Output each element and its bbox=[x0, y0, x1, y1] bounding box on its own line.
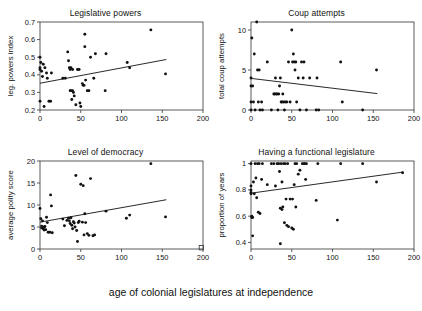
panel-functional-legislature: Having a functional legislature 05010015… bbox=[211, 139, 422, 278]
svg-text:0: 0 bbox=[249, 253, 253, 262]
panel-coup-attempts: Coup attempts 0501001502000510total coup… bbox=[211, 0, 422, 139]
svg-text:100: 100 bbox=[326, 114, 338, 123]
svg-text:average polity score: average polity score bbox=[6, 170, 15, 240]
svg-text:0.2: 0.2 bbox=[25, 106, 35, 115]
svg-text:100: 100 bbox=[326, 253, 338, 262]
svg-text:15: 15 bbox=[27, 179, 35, 188]
svg-text:0: 0 bbox=[242, 106, 246, 115]
plot-legislative-powers: 0501001502000.20.30.40.50.60.7leg. power… bbox=[0, 0, 211, 139]
svg-text:total coup attempts: total coup attempts bbox=[217, 33, 226, 99]
svg-text:100: 100 bbox=[115, 114, 127, 123]
svg-text:150: 150 bbox=[156, 114, 168, 123]
svg-text:0.6: 0.6 bbox=[236, 212, 246, 221]
svg-text:150: 150 bbox=[367, 114, 379, 123]
plot-level-of-democracy: 05010015020005101520average polity score bbox=[0, 139, 211, 278]
svg-text:0: 0 bbox=[249, 114, 253, 123]
svg-text:5: 5 bbox=[242, 66, 246, 75]
svg-text:10: 10 bbox=[27, 201, 35, 210]
plot-functional-legislature: 0501001502000.40.60.81proportion of year… bbox=[211, 139, 422, 278]
svg-text:leg. powers index: leg. powers index bbox=[6, 36, 15, 97]
panel-level-of-democracy: Level of democracy 05010015020005101520a… bbox=[0, 139, 211, 278]
shared-x-axis-label: age of colonial legislatures at independ… bbox=[0, 286, 422, 298]
svg-text:200: 200 bbox=[197, 114, 209, 123]
svg-text:10: 10 bbox=[238, 26, 246, 35]
svg-text:200: 200 bbox=[197, 253, 209, 262]
svg-text:0: 0 bbox=[38, 253, 42, 262]
svg-text:200: 200 bbox=[408, 114, 420, 123]
svg-text:200: 200 bbox=[408, 253, 420, 262]
svg-text:50: 50 bbox=[288, 253, 296, 262]
svg-text:50: 50 bbox=[288, 114, 296, 123]
svg-text:0.7: 0.7 bbox=[25, 18, 35, 27]
svg-text:0.8: 0.8 bbox=[236, 185, 246, 194]
svg-text:0.3: 0.3 bbox=[25, 88, 35, 97]
panel-legislative-powers: Legislative powers 0501001502000.20.30.4… bbox=[0, 0, 211, 139]
svg-text:50: 50 bbox=[77, 253, 85, 262]
svg-text:20: 20 bbox=[27, 157, 35, 166]
svg-text:5: 5 bbox=[31, 223, 35, 232]
plot-coup-attempts: 0501001502000510total coup attempts bbox=[211, 0, 422, 139]
svg-text:0.4: 0.4 bbox=[25, 70, 35, 79]
figure-panel-grid: Legislative powers 0501001502000.20.30.4… bbox=[0, 0, 422, 311]
svg-text:0: 0 bbox=[31, 245, 35, 254]
svg-text:0.4: 0.4 bbox=[236, 238, 246, 247]
svg-text:150: 150 bbox=[156, 253, 168, 262]
scatter-panels: Legislative powers 0501001502000.20.30.4… bbox=[0, 0, 422, 278]
svg-text:50: 50 bbox=[77, 114, 85, 123]
shared-xlabel-area: age of colonial legislatures at independ… bbox=[0, 278, 422, 311]
svg-text:proportion of years: proportion of years bbox=[217, 172, 226, 237]
svg-text:150: 150 bbox=[367, 253, 379, 262]
svg-text:100: 100 bbox=[115, 253, 127, 262]
svg-text:0.6: 0.6 bbox=[25, 35, 35, 44]
svg-text:0.5: 0.5 bbox=[25, 53, 35, 62]
svg-text:1: 1 bbox=[242, 159, 246, 168]
svg-text:0: 0 bbox=[38, 114, 42, 123]
